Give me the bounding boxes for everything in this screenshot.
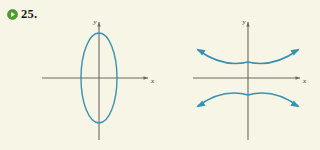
y-axis-arrow-icon	[97, 22, 100, 27]
figure-26-hyperbola-plot: x y	[160, 0, 320, 150]
y-axis-arrow-icon	[246, 22, 249, 27]
y-axis-label: y	[242, 18, 247, 26]
x-axis-label: x	[302, 77, 307, 85]
figure-25-ellipse-plot: x y	[0, 0, 160, 150]
x-axis-arrow-icon	[296, 76, 301, 79]
x-axis-arrow-icon	[144, 76, 149, 79]
textbook-page: 25. x y 26. x y	[0, 0, 320, 150]
x-axis-label: x	[150, 77, 155, 85]
problem-26: 26. x y	[160, 0, 320, 150]
problem-25: 25. x y	[0, 0, 160, 150]
y-axis-label: y	[93, 18, 98, 26]
